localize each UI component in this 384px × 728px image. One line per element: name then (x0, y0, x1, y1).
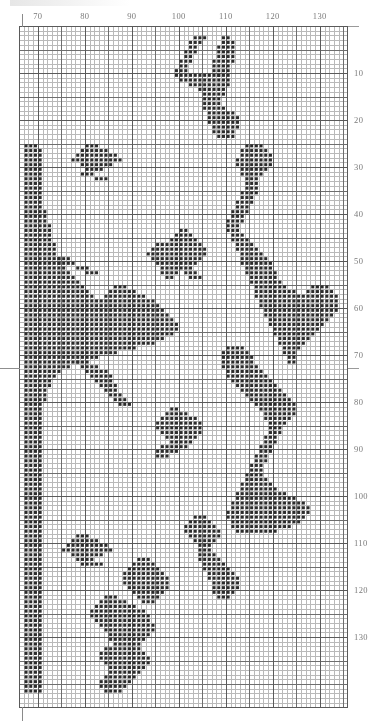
x-tick-label-100: 100 (172, 11, 186, 21)
x-tick-label-80: 80 (80, 11, 89, 21)
y-tick-label-20: 20 (354, 115, 363, 125)
y-tick-label-70: 70 (354, 350, 363, 360)
filled-cells-layer (19, 26, 348, 708)
x-tick-label-120: 120 (266, 11, 280, 21)
bottom-left-axis-tick (22, 707, 23, 721)
y-tick-label-10: 10 (354, 68, 363, 78)
x-tick-label-110: 110 (219, 11, 233, 21)
y-tick-label-110: 110 (354, 538, 368, 548)
scan-artifact-smudge (10, 0, 130, 6)
right-mid-axis-rule (348, 368, 359, 369)
y-tick-label-80: 80 (354, 397, 363, 407)
left-mid-axis-rule (0, 368, 20, 369)
x-tick-label-130: 130 (313, 11, 327, 21)
right-top-axis-rule (348, 26, 359, 27)
y-tick-label-130: 130 (354, 632, 368, 642)
y-tick-label-40: 40 (354, 209, 363, 219)
x-tick-label-90: 90 (127, 11, 136, 21)
y-tick-label-90: 90 (354, 444, 363, 454)
y-tick-label-30: 30 (354, 162, 363, 172)
y-tick-label-120: 120 (354, 585, 368, 595)
y-tick-label-100: 100 (354, 491, 368, 501)
stitch-grid-plot[interactable] (19, 26, 348, 708)
y-tick-label-50: 50 (354, 256, 363, 266)
y-tick-label-60: 60 (354, 303, 363, 313)
top-left-axis-tick (22, 14, 23, 27)
x-tick-label-70: 70 (33, 11, 42, 21)
chart-page: 708090100110120130 102030405060708090100… (0, 0, 384, 728)
